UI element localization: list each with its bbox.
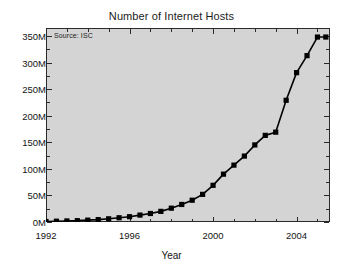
y-tick-label: 100M	[6, 163, 46, 174]
series-line-internet-hosts	[46, 37, 326, 221]
data-point-marker	[190, 198, 195, 203]
data-point-marker	[127, 214, 132, 219]
data-point-marker	[46, 219, 49, 222]
data-point-marker	[242, 153, 247, 158]
data-point-marker	[75, 218, 80, 222]
data-point-marker	[294, 70, 299, 75]
data-point-marker	[284, 98, 289, 103]
data-series-layer	[46, 28, 330, 222]
y-tick-label: 150M	[6, 137, 46, 148]
x-axis-title: Year	[0, 250, 343, 261]
data-point-marker	[169, 206, 174, 211]
y-tick-label: 50M	[6, 190, 46, 201]
data-point-marker	[179, 202, 184, 207]
data-point-marker	[323, 34, 328, 39]
data-point-marker	[64, 218, 69, 222]
x-tick-label: 1992	[24, 230, 68, 241]
data-point-marker	[148, 211, 153, 216]
x-tick-label: 2000	[191, 230, 235, 241]
x-tick-label: 1996	[108, 230, 152, 241]
data-point-marker	[210, 183, 215, 188]
data-point-marker	[96, 217, 101, 222]
y-tick-label: 250M	[6, 84, 46, 95]
data-point-marker	[54, 219, 59, 222]
data-point-marker	[200, 192, 205, 197]
series-markers-internet-hosts	[46, 34, 328, 222]
data-point-marker	[304, 53, 309, 58]
y-tick-label: 200M	[6, 110, 46, 121]
y-tick-label: 0M	[6, 217, 46, 228]
data-point-marker	[106, 216, 111, 221]
data-point-marker	[221, 172, 226, 177]
chart-container: Number of Internet Hosts Source: ISC 0M5…	[0, 0, 343, 277]
data-point-marker	[116, 215, 121, 220]
y-tick-label: 300M	[6, 57, 46, 68]
data-point-marker	[315, 34, 320, 39]
data-point-marker	[231, 163, 236, 168]
data-point-marker	[273, 130, 278, 135]
y-tick-label: 350M	[6, 30, 46, 41]
data-point-marker	[137, 212, 142, 217]
y-tick-major-right	[324, 222, 329, 223]
data-point-marker	[252, 142, 257, 147]
data-point-marker	[85, 218, 90, 222]
x-tick-label: 2004	[275, 230, 319, 241]
y-tick-major	[47, 222, 52, 223]
chart-title: Number of Internet Hosts	[0, 10, 343, 22]
data-point-marker	[158, 209, 163, 214]
data-point-marker	[263, 133, 268, 138]
